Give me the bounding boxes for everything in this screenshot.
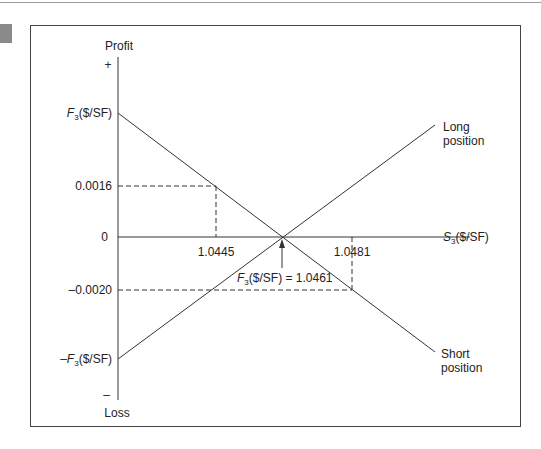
x-tick-10445: 1.0445: [198, 245, 235, 259]
tick-neg-f3: –F3($/SF): [60, 352, 112, 368]
long-position-label-2: position: [443, 134, 484, 148]
short-position-label-1: Short: [441, 347, 470, 361]
loss-label: Loss: [104, 406, 129, 420]
short-position-label-2: position: [441, 361, 482, 375]
tick-m0020: –0.0020: [69, 283, 113, 297]
forward-rate-annotation: F3($/SF) = 1.0461: [237, 271, 333, 287]
plus-sign: +: [104, 58, 111, 72]
tick-0016: 0.0016: [75, 179, 112, 193]
arrow-head-icon: [279, 239, 285, 248]
minus-sign: –: [103, 388, 110, 402]
short-position-line: [118, 113, 435, 352]
tick-0: 0: [101, 230, 108, 244]
x-tick-10481: 1.0481: [334, 245, 371, 259]
profit-label: Profit: [105, 39, 134, 53]
payoff-chart: Profit + – Loss F3($/SF) 0.0016 0 –0.002…: [0, 0, 541, 449]
long-position-line: [118, 125, 435, 359]
long-position-label-1: Long: [443, 120, 470, 134]
x-axis-label: S3($/SF): [443, 230, 489, 246]
tick-f3: F3($/SF): [67, 106, 112, 122]
